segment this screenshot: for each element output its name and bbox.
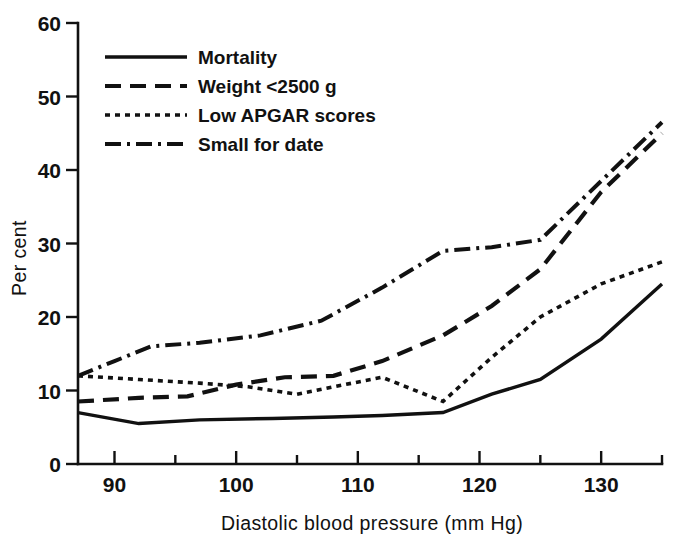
x-tick-label: 100 xyxy=(219,473,254,496)
chart-figure: 0102030405060 90100110120130 MortalityWe… xyxy=(0,0,685,547)
chart-canvas: 0102030405060 90100110120130 MortalityWe… xyxy=(0,0,685,547)
y-tick-label: 20 xyxy=(38,306,61,329)
y-tick-label: 40 xyxy=(38,159,61,182)
legend-label: Low APGAR scores xyxy=(198,105,376,126)
x-axis-title: Diastolic blood pressure (mm Hg) xyxy=(221,512,523,534)
y-axis-tick-labels: 0102030405060 xyxy=(38,12,61,476)
y-tick-label: 10 xyxy=(38,380,61,403)
data-series-group xyxy=(78,122,662,423)
x-tick-label: 130 xyxy=(584,473,619,496)
y-tick-label: 50 xyxy=(38,86,61,109)
legend-label: Mortality xyxy=(198,47,278,68)
x-axis-ticks xyxy=(115,451,663,464)
y-tick-label: 60 xyxy=(38,12,61,35)
x-tick-label: 120 xyxy=(462,473,497,496)
legend-label: Small for date xyxy=(198,134,324,155)
y-axis-ticks xyxy=(66,23,78,464)
x-tick-label: 90 xyxy=(103,473,126,496)
series-line xyxy=(78,133,662,401)
series-line xyxy=(78,262,662,402)
chart-legend: MortalityWeight <2500 gLow APGAR scoresS… xyxy=(105,47,376,155)
legend-label: Weight <2500 g xyxy=(198,76,337,97)
series-line xyxy=(78,284,662,424)
series-line xyxy=(78,122,662,376)
y-axis-title: Per cent xyxy=(8,220,30,296)
y-tick-label: 0 xyxy=(49,453,61,476)
x-tick-label: 110 xyxy=(341,473,375,496)
y-tick-label: 30 xyxy=(38,233,61,256)
x-axis-tick-labels: 90100110120130 xyxy=(103,473,619,496)
